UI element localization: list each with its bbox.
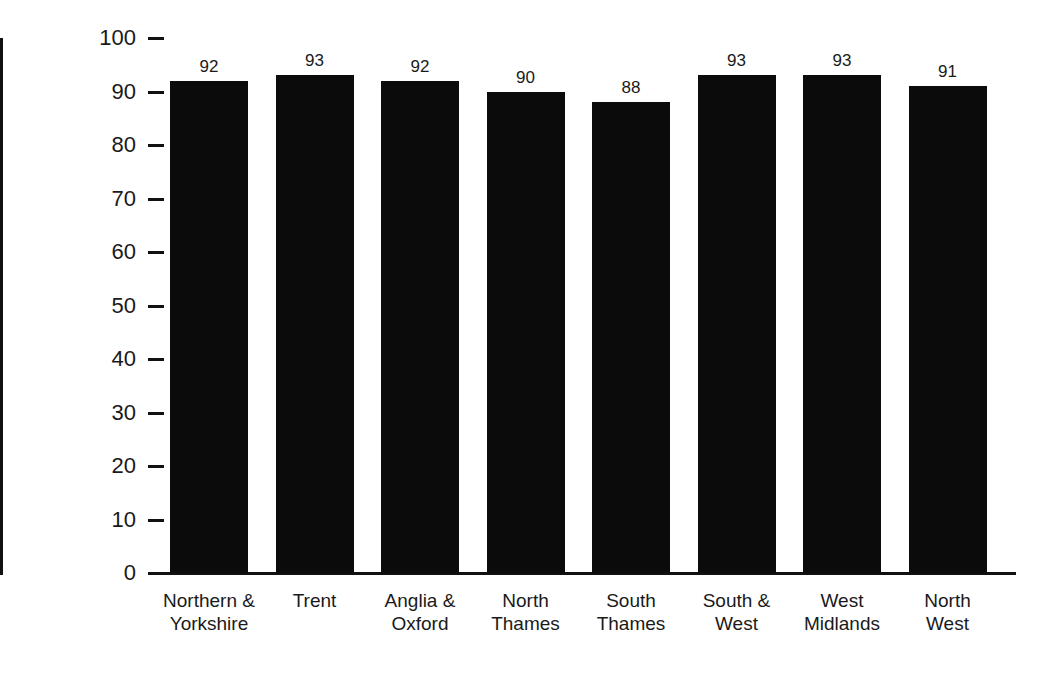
bar[interactable] <box>909 86 987 573</box>
bar[interactable] <box>276 75 354 573</box>
y-tick-label: 90 <box>78 81 136 103</box>
bar-value-label: 90 <box>467 69 585 86</box>
y-tick-label: 50 <box>78 295 136 317</box>
bar[interactable] <box>381 81 459 573</box>
bar[interactable] <box>803 75 881 573</box>
x-tick-label: North West <box>883 589 1013 635</box>
y-tick-mark <box>148 572 164 575</box>
bar[interactable] <box>170 81 248 573</box>
y-tick-label: 40 <box>78 348 136 370</box>
y-tick-label: 10 <box>78 509 136 531</box>
bar-value-label: 93 <box>256 52 374 69</box>
y-tick-label: 0 <box>78 562 136 584</box>
y-axis-line <box>0 38 3 575</box>
y-tick-mark <box>148 412 164 415</box>
bar[interactable] <box>487 92 565 574</box>
y-tick-label: 70 <box>78 188 136 210</box>
y-tick-label: 100 <box>78 27 136 49</box>
bar-value-label: 91 <box>889 63 1007 80</box>
bar-value-label: 92 <box>150 58 268 75</box>
bar-value-label: 93 <box>783 52 901 69</box>
y-tick-mark <box>148 37 164 40</box>
y-tick-mark <box>148 519 164 522</box>
y-tick-label: 30 <box>78 402 136 424</box>
y-tick-mark <box>148 251 164 254</box>
y-tick-mark <box>148 358 164 361</box>
bar-value-label: 93 <box>678 52 796 69</box>
y-tick-mark <box>148 465 164 468</box>
y-tick-mark <box>148 144 164 147</box>
bar[interactable] <box>592 102 670 573</box>
y-tick-mark <box>148 305 164 308</box>
bar[interactable] <box>698 75 776 573</box>
y-tick-mark <box>148 198 164 201</box>
bar-value-label: 92 <box>361 58 479 75</box>
y-tick-label: 20 <box>78 455 136 477</box>
y-tick-mark <box>148 91 164 94</box>
y-tick-label: 60 <box>78 241 136 263</box>
bar-value-label: 88 <box>572 79 690 96</box>
bar-chart-figure: Coverage (%) 0102030405060708090100 9293… <box>0 0 1058 677</box>
y-tick-label: 80 <box>78 134 136 156</box>
